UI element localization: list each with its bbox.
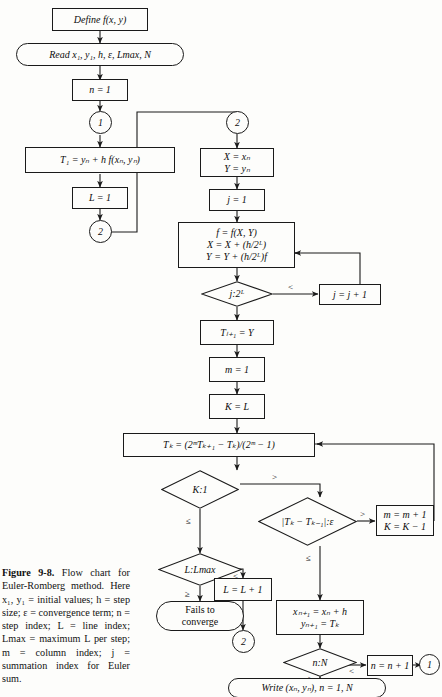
node-j-increment: j = j + 1 [319, 284, 381, 305]
node-read-label: Read x₁, y₁, h, ε, Lmax, N [49, 49, 151, 61]
decision-k-vs-1: K:1 [161, 470, 239, 509]
node-n-increment: n = n + 1 [367, 655, 413, 676]
edge-label-eps-le: ≤ [306, 553, 311, 563]
node-n-init-label: n = 1 [89, 84, 111, 96]
node-m-init: m = 1 [209, 357, 265, 382]
node-l-increment-label: L = L + 1 [223, 584, 262, 596]
connector-2-bottom-label: 2 [241, 636, 246, 648]
decision-j-label: j:2ᴸ [229, 288, 244, 300]
node-tl-assign-label: Tₗ₊₁ = Y [220, 327, 253, 339]
decision-k-label: K:1 [193, 484, 208, 496]
node-j-increment-label: j = j + 1 [333, 289, 367, 301]
node-t1-label: T₁ = yₙ + h f(xₙ, yₙ) [60, 154, 140, 166]
node-read: Read x₁, y₁, h, ε, Lmax, N [16, 43, 184, 66]
node-fails-to-converge: Fails to converge [156, 601, 244, 631]
node-xy-init-line2: Y = yₙ [224, 163, 250, 175]
node-euler-line3: Y = Y + (h/2ᴸ)f [206, 251, 267, 263]
node-j-init-label: j = 1 [227, 194, 247, 206]
connector-1-right-label: 1 [427, 659, 432, 671]
connector-1-top: 1 [89, 111, 112, 134]
decision-j-vs-2L: j:2ᴸ [201, 281, 273, 307]
edge-label-k1-gt: > [272, 472, 277, 482]
node-write-output: Write (xₙ, yₙ), n = 1, N [228, 678, 386, 697]
decision-n-vs-N: n:N [283, 648, 357, 677]
node-t1: T₁ = yₙ + h f(xₙ, yₙ) [25, 147, 175, 173]
connector-2-left-label: 2 [98, 226, 103, 238]
decision-lmax-label: L:Lmax [184, 564, 215, 576]
connector-2-bottom: 2 [232, 630, 255, 653]
node-n-init: n = 1 [72, 79, 128, 101]
node-write-label: Write (xₙ, yₙ), n = 1, N [261, 682, 352, 694]
node-tl-assign: Tₗ₊₁ = Y [200, 320, 274, 345]
node-romberg-update: Tₖ = (2ᵐTₖ₊₁ − Tₖ)/(2ᵐ − 1) [123, 433, 315, 457]
node-romberg-label: Tₖ = (2ᵐTₖ₊₁ − Tₖ)/(2ᵐ − 1) [163, 439, 275, 451]
edge-label-j-lt: < [288, 282, 293, 292]
node-euler-line1: f = f(X, Y) [216, 227, 257, 239]
figure-caption-text: Flow chart for Euler-Romberg method. Her… [2, 567, 130, 684]
node-l-init: L = 1 [72, 187, 128, 209]
node-xy-init: X = xₙ Y = yₙ [200, 148, 274, 177]
node-j-init: j = 1 [209, 189, 265, 211]
decision-nN-label: n:N [313, 657, 328, 669]
decision-epsilon-label: |Tₖ − Tₖ₋₁|:ε [281, 516, 333, 528]
node-advance-step: xₙ₊₁ = xₙ + h yₙ₊₁ = Tₖ [276, 600, 364, 635]
node-xy-init-line1: X = xₙ [224, 151, 250, 163]
connector-2-right-label: 2 [235, 117, 240, 129]
node-advance-line2: yₙ₊₁ = Tₖ [301, 618, 339, 630]
decision-epsilon: |Tₖ − Tₖ₋₁|:ε [258, 497, 357, 546]
edge-label-lmax-ge: ≥ [185, 589, 190, 599]
edge-label-nN-lt: < [349, 666, 354, 676]
edge-label-eps-gt: > [360, 509, 365, 519]
node-l-init-label: L = 1 [89, 192, 111, 204]
node-m-increment: m = m + 1 K = K − 1 [376, 505, 434, 536]
node-define-label: Define f(x, y) [74, 14, 126, 26]
node-l-increment: L = L + 1 [214, 578, 272, 601]
node-euler-step: f = f(X, Y) X = X + (h/2ᴸ) Y = Y + (h/2ᴸ… [178, 222, 295, 268]
node-k-init-label: K = L [225, 401, 249, 413]
node-fails-line1: Fails to [185, 604, 215, 616]
node-k-init: K = L [209, 394, 265, 419]
figure-caption-label: Figure 9-8. [2, 567, 54, 578]
connector-2-right: 2 [226, 111, 249, 134]
node-define: Define f(x, y) [52, 8, 148, 31]
flowchart-figure: Define f(x, y) Read x₁, y₁, h, ε, Lmax, … [0, 0, 442, 697]
figure-caption: Figure 9-8. Flow chart for Euler-Romberg… [2, 566, 130, 685]
node-advance-line1: xₙ₊₁ = xₙ + h [293, 606, 347, 618]
node-euler-line2: X = X + (h/2ᴸ) [207, 239, 266, 251]
edge-label-k1-le: ≤ [186, 516, 191, 526]
connector-1-top-label: 1 [98, 117, 103, 129]
node-m-init-label: m = 1 [225, 364, 249, 376]
node-m-increment-line1: m = m + 1 [384, 509, 427, 521]
connector-2-left: 2 [89, 220, 112, 243]
node-n-increment-label: n = n + 1 [371, 660, 410, 672]
connector-1-right: 1 [419, 654, 440, 675]
node-m-increment-line2: K = K − 1 [384, 521, 426, 533]
node-fails-line2: converge [182, 616, 218, 628]
